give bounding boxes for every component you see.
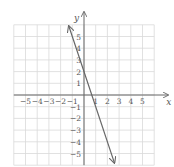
coordinate-graph: −5−4−3−2−11234554321−1−2−3−4−5 x y xyxy=(0,0,174,167)
x-tick-label: 2 xyxy=(105,97,110,106)
y-tick-label: 5 xyxy=(76,33,81,42)
y-tick-label: −4 xyxy=(70,138,81,147)
y-tick-label: −5 xyxy=(70,150,81,159)
x-tick-label: −2 xyxy=(55,97,66,106)
x-axis-label: x xyxy=(166,97,171,107)
y-tick-label: 1 xyxy=(76,79,81,88)
x-tick-label: 3 xyxy=(117,97,122,106)
y-tick-label: 2 xyxy=(76,68,81,77)
y-axis-label: y xyxy=(73,13,80,23)
x-tick-label: 5 xyxy=(140,97,145,106)
x-tick-label: −3 xyxy=(43,97,54,106)
y-tick-label: −1 xyxy=(70,103,81,112)
x-tick-label: 4 xyxy=(128,97,133,106)
x-tick-label: −5 xyxy=(20,97,31,106)
y-tick-label: −3 xyxy=(70,126,81,135)
y-tick-label: −2 xyxy=(70,114,81,123)
x-tick-label: −4 xyxy=(32,97,43,106)
